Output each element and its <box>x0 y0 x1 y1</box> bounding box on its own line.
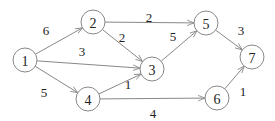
edge-weight-4-6: 4 <box>150 106 157 121</box>
edge-weight-1-4: 5 <box>41 85 48 100</box>
node-6: 6 <box>205 86 229 110</box>
edge-weight-1-3: 3 <box>79 44 86 59</box>
edge-weight-4-3: 1 <box>125 77 132 92</box>
node-2: 2 <box>81 10 105 34</box>
edge-4-6 <box>100 98 205 99</box>
edge-4-3 <box>99 74 141 94</box>
edge-weight-5-7: 3 <box>238 23 245 38</box>
node-label: 1 <box>22 54 29 69</box>
node-label: 7 <box>249 51 256 66</box>
node-4: 4 <box>76 87 100 111</box>
graph-svg: 1234567 6352251431 <box>0 0 275 120</box>
node-label: 5 <box>203 17 210 32</box>
node-3: 3 <box>140 57 164 81</box>
graph-diagram: 1234567 6352251431 <box>0 0 275 120</box>
edge-weight-3-5: 5 <box>170 29 177 44</box>
edge-weight-2-5: 2 <box>146 10 153 25</box>
edge-weight-1-2: 6 <box>43 23 50 38</box>
nodes-layer: 1234567 <box>13 10 264 111</box>
edge-weight-2-3: 2 <box>119 30 126 45</box>
node-label: 3 <box>149 63 156 78</box>
node-label: 2 <box>90 16 97 31</box>
node-1: 1 <box>13 48 37 72</box>
edge-1-3 <box>37 61 140 68</box>
edge-3-5 <box>161 31 197 61</box>
node-7: 7 <box>240 45 264 69</box>
node-5: 5 <box>194 11 218 35</box>
node-label: 6 <box>214 92 221 107</box>
edge-weight-6-7: 1 <box>240 84 247 99</box>
node-label: 4 <box>85 93 92 108</box>
